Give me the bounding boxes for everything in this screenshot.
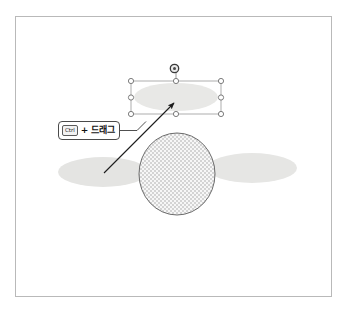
ctrl-drag-callout[interactable]: Ctrl + 드래그 [58,121,120,140]
callout-leader-line [120,122,147,131]
plus-sign: + [80,126,90,135]
center-circle[interactable] [139,133,215,215]
handle-bottom-left[interactable] [128,111,133,116]
handle-middle-right[interactable] [218,95,223,100]
handle-top-left[interactable] [128,78,133,83]
handle-bottom-right[interactable] [218,111,223,116]
rotation-handle-center-dot [173,67,176,70]
right-wing-ellipse[interactable] [207,153,297,183]
ctrl-keycap: Ctrl [62,125,78,136]
handle-top-right[interactable] [218,78,223,83]
screenshot-root: Ctrl + 드래그 [0,0,347,314]
selected-copy-ellipse[interactable] [134,83,218,111]
handle-bottom-center[interactable] [173,111,178,116]
shape-illustration [0,0,347,314]
drag-action-label: 드래그 [91,126,114,135]
left-wing-ellipse[interactable] [58,157,148,187]
handle-middle-left[interactable] [128,95,133,100]
handle-top-center[interactable] [173,78,178,83]
